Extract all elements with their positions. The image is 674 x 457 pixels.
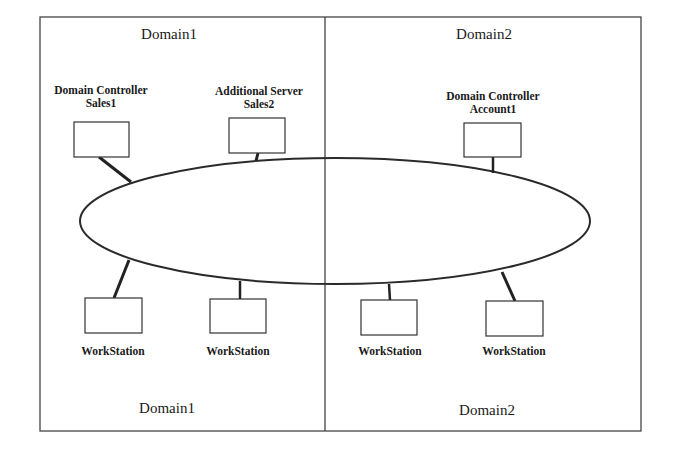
node-box-dc-sales1 — [74, 122, 129, 157]
network-diagram — [0, 0, 674, 457]
node-box-ws1 — [85, 298, 142, 333]
connector-dc-sales1 — [99, 157, 131, 182]
node-label-dc-sales1-name: Sales1 — [41, 97, 161, 110]
node-label-ws3: WorkStation — [340, 345, 440, 358]
node-box-ws2 — [210, 299, 266, 333]
node-label-dc-account1-name: Account1 — [433, 103, 553, 116]
node-label-ws1: WorkStation — [63, 345, 163, 358]
node-box-ws3 — [361, 300, 417, 335]
connector-ws3 — [389, 284, 390, 300]
connector-ws4 — [502, 272, 515, 301]
node-label-ws4: WorkStation — [464, 345, 564, 358]
node-box-ws4 — [486, 301, 543, 336]
domain1-top-label: Domain1 — [119, 26, 219, 43]
node-label-dc-account1-role: Domain Controller — [433, 90, 553, 103]
node-label-ws2: WorkStation — [188, 345, 288, 358]
domain2-top-label: Domain2 — [434, 26, 534, 43]
connector-as-sales2 — [256, 153, 258, 161]
node-label-as-sales2-role: Additional Server — [197, 85, 321, 98]
node-label-as-sales2-name: Sales2 — [197, 98, 321, 111]
outer-frame — [40, 17, 641, 431]
node-label-as-sales2: Additional Server Sales2 — [197, 85, 321, 111]
network-ellipse — [80, 158, 590, 284]
domain2-bottom-label: Domain2 — [437, 402, 537, 419]
domain1-bottom-label: Domain1 — [117, 400, 217, 417]
connector-ws1 — [114, 260, 129, 298]
node-label-dc-sales1-role: Domain Controller — [41, 84, 161, 97]
node-label-dc-account1: Domain Controller Account1 — [433, 90, 553, 116]
node-box-dc-account1 — [464, 123, 521, 157]
node-box-as-sales2 — [229, 118, 285, 153]
node-label-dc-sales1: Domain Controller Sales1 — [41, 84, 161, 110]
